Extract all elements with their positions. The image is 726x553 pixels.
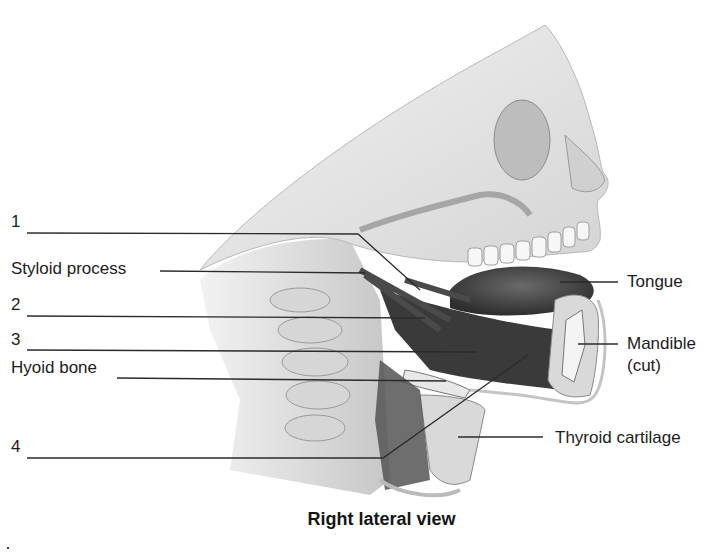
caption-text: Right lateral view: [307, 509, 455, 529]
figure-caption: Right lateral view: [0, 509, 726, 530]
label-mandible-cut: (cut): [627, 356, 661, 376]
label-1: 1: [11, 212, 20, 232]
label-mandible: Mandible: [627, 334, 696, 354]
stray-mark: [7, 547, 9, 549]
label-hyoid-bone: Hyoid bone: [11, 358, 97, 378]
label-2: 2: [11, 295, 20, 315]
label-3: 3: [11, 330, 20, 350]
label-styloid-process: Styloid process: [11, 259, 126, 279]
label-thyroid-cartilage: Thyroid cartilage: [555, 428, 681, 448]
label-tongue: Tongue: [627, 272, 683, 292]
label-4: 4: [11, 437, 20, 457]
orbit: [494, 100, 550, 180]
